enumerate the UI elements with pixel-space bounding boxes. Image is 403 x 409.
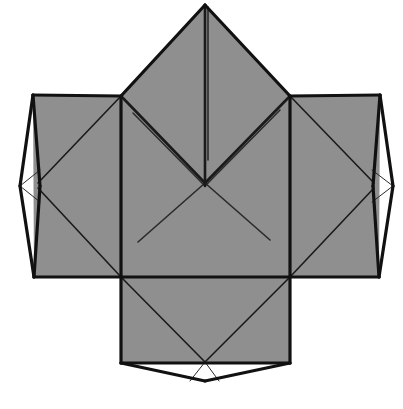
left-panel-top-edge [33, 95, 121, 96]
right-side-panel [290, 95, 380, 277]
right-panel-top-edge [290, 95, 380, 96]
crease-pattern-diagram [0, 0, 403, 409]
bottom-panel [121, 277, 290, 363]
figure-root [0, 0, 403, 409]
left-side-panel [33, 95, 121, 277]
